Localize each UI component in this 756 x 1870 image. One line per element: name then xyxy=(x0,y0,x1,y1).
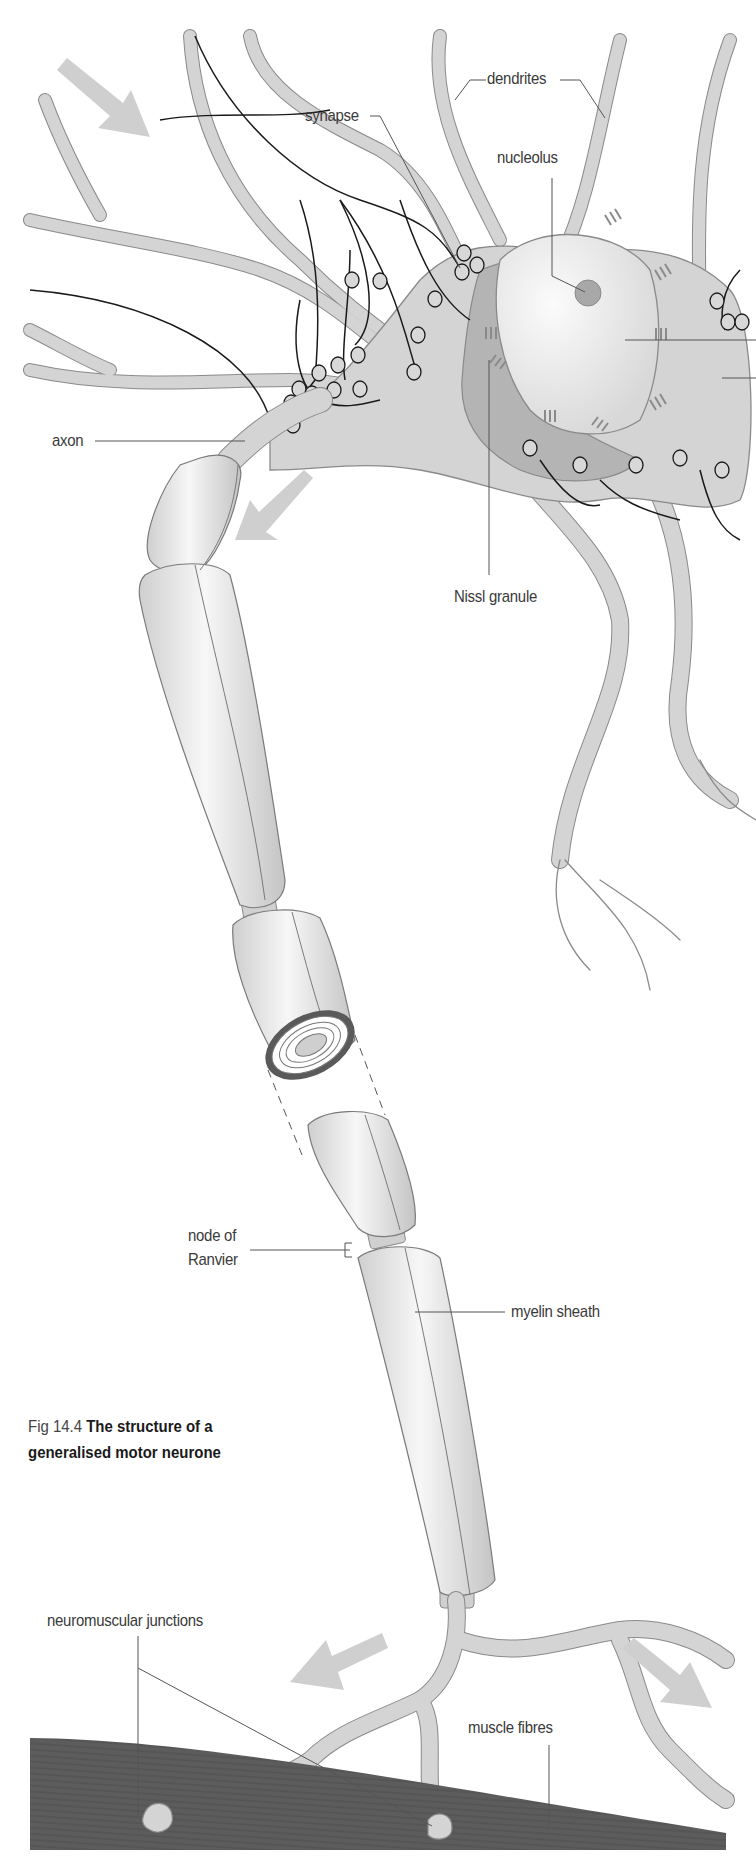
dendrite-tree xyxy=(30,36,756,990)
label-muscle-fibres: muscle fibres xyxy=(468,1718,553,1738)
label-neuromuscular-junctions: neuromuscular junctions xyxy=(47,1611,203,1631)
label-node-of-ranvier-2: Ranvier xyxy=(188,1250,238,1270)
label-axon: axon xyxy=(52,431,83,451)
label-nucleolus: nucleolus xyxy=(497,148,558,168)
label-synapse: synapse xyxy=(305,106,359,126)
muscle-fibres xyxy=(30,1738,726,1850)
impulse-axon-arrow xyxy=(235,470,313,540)
impulse-out-left-arrow xyxy=(290,1633,388,1690)
figure-title-line1: The structure of a xyxy=(86,1417,212,1436)
neurone-diagram xyxy=(0,0,756,1870)
label-nissl-granule: Nissl granule xyxy=(454,587,537,607)
label-myelin-sheath: myelin sheath xyxy=(511,1302,600,1322)
label-dendrites: dendrites xyxy=(487,69,546,89)
figure-caption: Fig 14.4 The structure of a generalised … xyxy=(28,1414,221,1466)
figure-title-line2: generalised motor neurone xyxy=(28,1443,221,1462)
nucleolus xyxy=(575,280,601,306)
label-node-of-ranvier-1: node of xyxy=(188,1226,236,1246)
impulse-in-arrow xyxy=(57,58,150,137)
figure-number: Fig 14.4 xyxy=(28,1417,82,1436)
